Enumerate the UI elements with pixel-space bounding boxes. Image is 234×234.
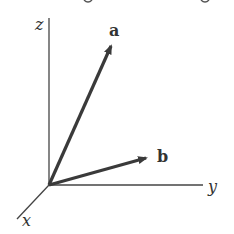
- vector-b-label: b: [157, 147, 168, 166]
- vector-a-label: a: [109, 21, 119, 40]
- y-axis-label: y: [207, 177, 218, 196]
- vector-b: [49, 158, 146, 185]
- x-axis-label: x: [22, 211, 31, 230]
- vector-diagram: z y x a b: [0, 0, 234, 234]
- z-axis-label: z: [34, 15, 44, 34]
- vector-a: [49, 46, 111, 185]
- cropped-text-fragment: [84, 0, 209, 2]
